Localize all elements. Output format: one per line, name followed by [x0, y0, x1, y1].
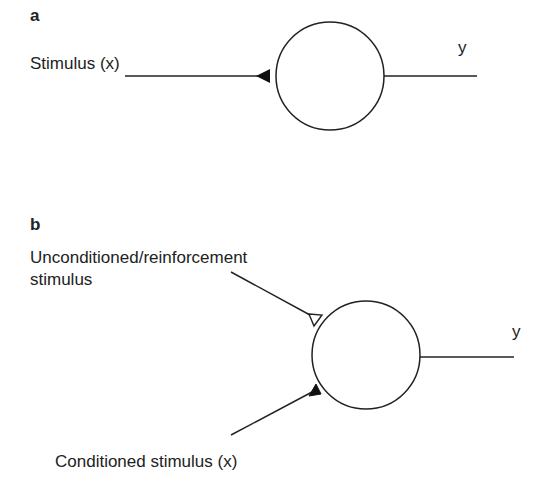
neuron-diagram	[0, 0, 552, 494]
conditioned-input-line	[231, 392, 312, 435]
neuron-circle-a	[276, 22, 384, 130]
unconditioned-input-line	[231, 272, 310, 315]
filled-synapse-triangle-a	[256, 69, 270, 83]
neuron-circle-b	[312, 301, 420, 409]
filled-synapse-triangle-b	[309, 384, 321, 396]
open-synapse-triangle	[309, 314, 322, 326]
